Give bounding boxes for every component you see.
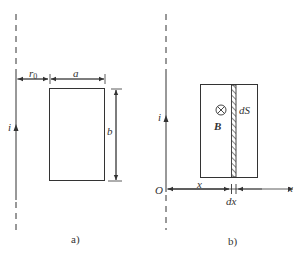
distance-label-r0: r0 — [29, 68, 37, 81]
r-subscript: 0 — [33, 72, 37, 81]
panel-a — [14, 14, 123, 230]
diagram-canvas — [0, 0, 301, 257]
dx-label: dx — [226, 196, 236, 207]
height-label-b: b — [107, 126, 113, 137]
rectangular-loop-b — [201, 85, 258, 178]
current-label-a: i — [8, 122, 11, 133]
current-wire-a — [14, 14, 19, 230]
origin-label: O — [155, 185, 163, 196]
current-arrow-icon — [14, 124, 19, 131]
strip-label-ds: dS — [239, 105, 250, 116]
caption-a: a) — [71, 234, 80, 245]
caption-b: b) — [228, 236, 237, 247]
axis-label-x: x — [288, 183, 293, 194]
strip-ds — [232, 85, 237, 177]
width-label-a: a — [73, 68, 79, 79]
current-wire-b — [164, 14, 169, 230]
current-label-b: i — [158, 112, 161, 123]
current-arrow-icon — [164, 115, 169, 122]
figure: i r0 a b a) i B dS O x x dx b) — [0, 0, 301, 257]
x-distance-label: x — [197, 179, 202, 190]
rectangular-loop-a — [50, 89, 105, 181]
field-into-page-icon — [216, 105, 226, 115]
field-label-b: B — [214, 121, 221, 132]
